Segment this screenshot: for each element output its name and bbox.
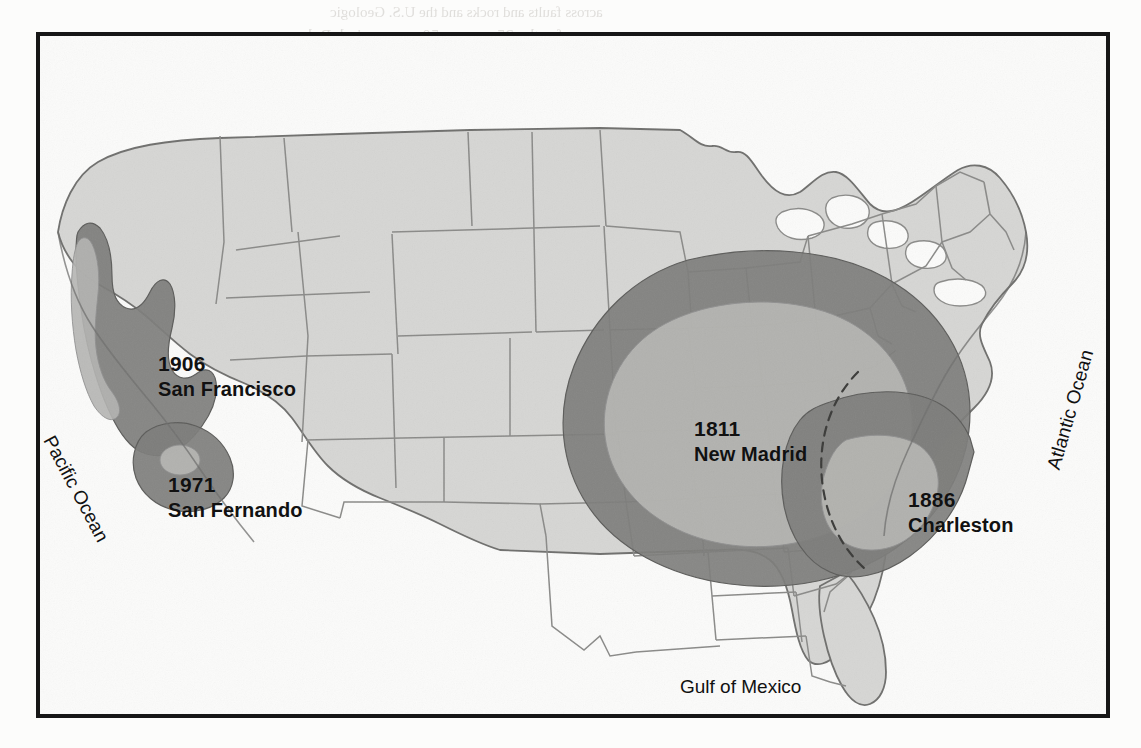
water-label-gulf-of-mexico: Gulf of Mexico [680, 676, 801, 698]
paper-grain-overlay [40, 36, 1106, 714]
bleed-through-line: across faults and rocks and the U.S. Geo… [330, 4, 603, 21]
us-earthquake-map [40, 36, 1106, 714]
figure-frame: 1906 San Francisco 1971 San Fernando 181… [36, 32, 1110, 718]
